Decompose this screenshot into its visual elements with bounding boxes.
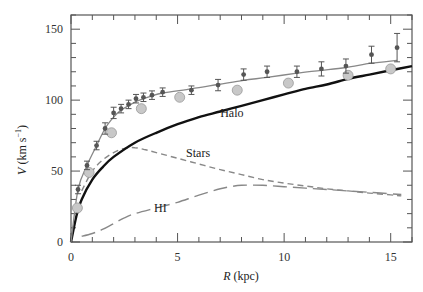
- data-marker: [85, 163, 90, 168]
- data-marker: [160, 90, 165, 95]
- observed-data-point: [394, 33, 400, 61]
- x-tick-label: 5: [175, 250, 181, 264]
- observed-data-point: [188, 86, 194, 95]
- data-marker: [150, 93, 155, 98]
- x-tick-label: 10: [278, 250, 290, 264]
- x-axis-label-unit: (kpc): [231, 269, 259, 283]
- hi-curve: [82, 185, 402, 236]
- observed-data-point: [160, 88, 166, 97]
- observed-data-point: [241, 69, 247, 80]
- data-marker: [265, 69, 270, 74]
- data-marker: [295, 69, 300, 74]
- curve-label-hi: HI: [154, 201, 167, 215]
- grey-data-point: [84, 167, 94, 177]
- data-marker: [344, 64, 349, 69]
- y-tick-label: 50: [51, 164, 63, 178]
- y-axis-label: V (km s−1): [14, 125, 29, 175]
- data-marker: [319, 67, 324, 72]
- data-marker: [369, 52, 374, 57]
- series-layer: [71, 33, 412, 242]
- curve-labels: HaloStarsHI: [154, 106, 243, 215]
- curve-label-stars: Stars: [186, 146, 210, 160]
- observed-data-point: [149, 91, 155, 100]
- grey-data-point: [343, 70, 353, 80]
- grey-data-point: [386, 64, 396, 74]
- y-tick-label: 100: [45, 93, 63, 107]
- observed-data-point: [294, 66, 300, 77]
- grey-data-point: [106, 128, 116, 138]
- observed-data-point: [111, 107, 117, 118]
- grey-data-point: [175, 92, 185, 102]
- observed-data-point: [318, 62, 324, 76]
- observed-data-point: [140, 93, 146, 102]
- observed-data-point: [75, 185, 81, 194]
- stars-curve: [82, 148, 402, 196]
- observed-data-point: [264, 66, 270, 77]
- data-marker: [94, 143, 99, 148]
- curve-label-halo: Halo: [220, 106, 243, 120]
- data-marker: [111, 110, 116, 115]
- y-axis-label-close: ): [15, 125, 29, 129]
- grey-data-point: [232, 85, 242, 95]
- y-axis-label-unit: (km s: [15, 137, 29, 167]
- observed-data-point: [369, 46, 375, 63]
- data-marker: [119, 106, 124, 111]
- x-axis-ticks: 051015: [68, 15, 412, 264]
- x-tick-label: 15: [385, 250, 397, 264]
- data-marker: [126, 102, 131, 107]
- plot-border: [71, 15, 412, 242]
- y-tick-label: 0: [57, 235, 63, 249]
- x-axis-label: R (kpc): [222, 269, 259, 283]
- observed-data-point: [215, 79, 221, 90]
- data-marker: [189, 88, 194, 93]
- data-marker: [76, 187, 81, 192]
- x-tick-label: 0: [68, 250, 74, 264]
- rotation-curve-chart: 051015 050100150 HaloStarsHI R (kpc) V (…: [0, 0, 423, 292]
- data-marker: [395, 45, 400, 50]
- y-axis-ticks: 050100150: [45, 15, 412, 249]
- data-marker: [141, 95, 146, 100]
- grey-data-point: [136, 104, 146, 114]
- data-marker: [241, 72, 246, 77]
- data-marker: [216, 83, 221, 88]
- data-marker: [134, 96, 139, 101]
- grey-data-point: [283, 78, 293, 88]
- data-marker: [103, 126, 108, 131]
- y-axis-label-exponent: −1: [14, 129, 23, 138]
- plot-frame: [71, 15, 412, 242]
- observed-data-point: [133, 94, 139, 103]
- y-tick-label: 150: [45, 22, 63, 36]
- grey-data-point: [72, 203, 82, 213]
